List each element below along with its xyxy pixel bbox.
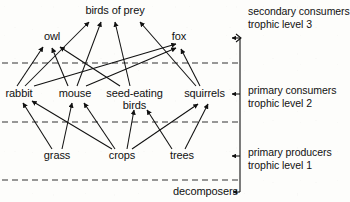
level-caption-2: primary consumers trophic level 2 [248,84,336,110]
node-label-fox[interactable]: fox [167,31,191,43]
node-text-decomposers: decomposers [173,185,238,197]
node-label-owl[interactable]: owl [38,31,66,43]
level-2-line2: trophic level 2 [248,97,336,110]
node-label-birds-of-prey[interactable]: birds of prey [85,5,145,17]
level-3-line2: trophic level 3 [248,18,350,31]
edge-mouse-birdsprey [77,22,101,86]
node-text-birds-of-prey: birds of prey [85,4,144,16]
node-text-mouse: mouse [59,87,92,99]
edge-rabbit-fox [34,44,176,86]
edge-grass-mouse [62,103,72,149]
node-text-rabbit: rabbit [6,87,33,99]
edge-seedbirds-owl [60,47,120,86]
food-web-diagram-page: birds of prey owl fox rabbit mouse seed-… [0,0,350,202]
node-text-squirrels: squirrels [184,87,225,99]
level-3-line1: secondary consumers [248,5,350,18]
node-text-crops: crops [109,149,135,161]
level-1-line2: trophic level 1 [248,159,332,172]
level-1-line1: primary producers [248,146,332,159]
trophic-bracket [232,38,240,192]
trophic-dividers [2,63,238,180]
edge-crops-seedbirds [127,110,134,149]
node-label-squirrels[interactable]: squirrels [182,88,227,100]
node-text-grass: grass [44,149,70,161]
node-label-grass[interactable]: grass [40,150,74,162]
level-caption-3: secondary consumers trophic level 3 [248,5,350,31]
level-2-line1: primary consumers [248,84,336,97]
edge-crops-rabbit [32,101,112,149]
node-text-trees: trees [170,149,194,161]
level-caption-1: primary producers trophic level 1 [248,146,332,172]
node-text-birds: birds [123,99,146,111]
node-label-trees[interactable]: trees [166,150,198,162]
node-label-seed-eating-birds[interactable]: seed-eating birds [106,88,163,111]
node-text-fox: fox [172,30,186,42]
node-text-seed-eating: seed-eating [106,87,162,99]
edge-rabbit-owl [17,47,43,86]
node-label-decomposers[interactable]: decomposers [173,186,237,198]
node-label-mouse[interactable]: mouse [56,88,94,100]
node-label-crops[interactable]: crops [105,150,139,162]
node-text-owl: owl [44,30,60,42]
node-label-rabbit[interactable]: rabbit [1,88,37,100]
edge-trees-seedbirds [147,110,172,149]
edge-seedbirds-birdsprey [115,22,130,86]
